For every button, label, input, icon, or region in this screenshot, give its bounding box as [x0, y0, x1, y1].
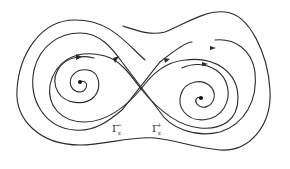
arrow-right-outer — [210, 46, 216, 50]
phase-portrait — [0, 0, 290, 169]
arrow-separatrix-left — [113, 56, 119, 63]
gamma-plus-label: Γε+ — [152, 124, 162, 134]
separatrix-gamma-plus — [141, 59, 238, 128]
separatrix-gamma-minus — [50, 54, 141, 122]
gamma-plus-sub: ε — [158, 129, 161, 136]
gamma-minus-label: Γε− — [112, 124, 122, 134]
arrow-top-mid — [164, 58, 170, 63]
second-orbit-left — [33, 42, 192, 130]
left-focus-point — [78, 80, 82, 84]
right-focus-point — [199, 96, 203, 100]
right-spiral — [180, 64, 228, 119]
gamma-minus-sup: − — [117, 121, 122, 128]
gamma-minus-sub: ε — [118, 129, 121, 136]
gamma-plus-sup: + — [157, 121, 162, 128]
